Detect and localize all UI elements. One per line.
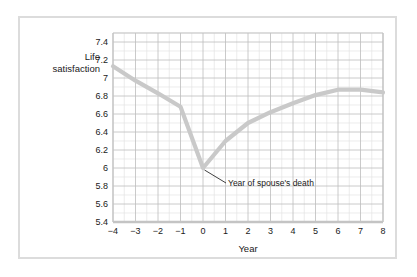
x-tick-label: 8	[380, 226, 385, 236]
x-tick-label: −1	[175, 226, 185, 236]
x-tick-label: −3	[130, 226, 140, 236]
x-tick-label: 6	[335, 226, 340, 236]
x-tick-label: 5	[313, 226, 318, 236]
y-tick-label: 5.4	[95, 217, 108, 227]
x-tick-label: 7	[358, 226, 363, 236]
y-tick-label: 6	[103, 163, 108, 173]
y-tick-label: 6.8	[95, 91, 108, 101]
y-axis-title-line2: satisfaction	[52, 63, 100, 74]
x-tick-label: 4	[290, 226, 295, 236]
x-tick-label: 3	[268, 226, 273, 236]
x-tick-label: −2	[153, 226, 163, 236]
x-tick-label: 0	[200, 226, 205, 236]
y-tick-label: 6.4	[95, 127, 108, 137]
y-tick-label: 7.4	[95, 37, 108, 47]
x-tick-label: 2	[245, 226, 250, 236]
life-satisfaction-line-chart: 5.45.65.866.26.46.66.877.27.4 −4−3−2−101…	[0, 0, 417, 277]
y-tick-label: 6.2	[95, 145, 108, 155]
y-tick-label: 5.8	[95, 181, 108, 191]
y-tick-label: 6.6	[95, 109, 108, 119]
y-tick-label: 5.6	[95, 199, 108, 209]
x-axis-tick-labels: −4−3−2−1012345678	[108, 226, 386, 236]
x-tick-label: −4	[108, 226, 118, 236]
x-axis-title: Year	[238, 243, 257, 254]
figure-container: 5.45.65.866.26.46.66.877.27.4 −4−3−2−101…	[0, 0, 417, 277]
annotation-label: Year of spouse's death	[228, 178, 314, 188]
y-axis-title-line1: Life	[85, 51, 100, 62]
y-tick-label: 7	[103, 73, 108, 83]
x-tick-label: 1	[223, 226, 228, 236]
